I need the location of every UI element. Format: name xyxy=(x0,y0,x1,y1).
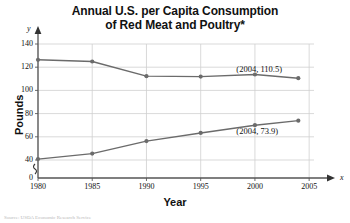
y-tick-label: 40 xyxy=(11,155,33,164)
y-tick-label: 80 xyxy=(11,109,33,118)
data-point xyxy=(36,157,40,161)
x-axis-title: Year xyxy=(0,196,350,208)
y-tick-label: 140 xyxy=(11,39,33,48)
chart-container: Annual U.S. per Capita Consumption of Re… xyxy=(0,0,350,223)
x-tick-label: 1990 xyxy=(129,182,163,191)
x-tick-label: 2005 xyxy=(292,182,326,191)
x-axis-variable-label: x xyxy=(340,173,344,182)
x-tick-label: 1995 xyxy=(184,182,218,191)
data-point xyxy=(296,76,300,80)
data-point xyxy=(144,74,148,78)
y-axis-arrowhead xyxy=(35,26,42,34)
data-point xyxy=(90,152,94,156)
chart-footnote: Source: USDA Economic Research Service xyxy=(4,215,91,220)
y-axis-break-mark xyxy=(34,164,37,174)
x-tick-label: 2000 xyxy=(238,182,272,191)
x-tick-label: 1980 xyxy=(21,182,55,191)
data-point xyxy=(144,139,148,143)
y-tick-label: 0 xyxy=(11,173,33,182)
data-point xyxy=(199,131,203,135)
data-point xyxy=(90,59,94,63)
y-tick-label: 120 xyxy=(11,62,33,71)
x-axis-arrowhead xyxy=(327,175,335,182)
axes xyxy=(34,26,336,181)
y-tick-label: 60 xyxy=(11,132,33,141)
data-point-annotation: (2004, 110.5) xyxy=(236,64,282,74)
data-point xyxy=(199,74,203,78)
data-point xyxy=(296,119,300,123)
y-tick-label: 100 xyxy=(11,85,33,94)
data-point-annotation: (2004, 73.9) xyxy=(236,126,278,136)
data-point xyxy=(36,58,40,62)
x-tick-label: 1985 xyxy=(75,182,109,191)
y-axis-variable-label: y xyxy=(27,24,31,33)
